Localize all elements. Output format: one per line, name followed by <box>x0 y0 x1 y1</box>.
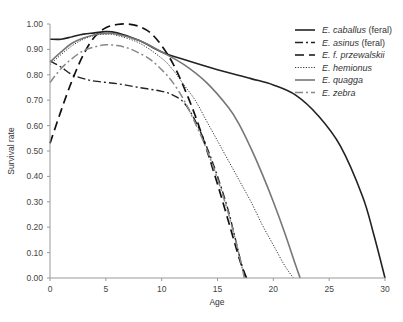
y-tick-label: 0.80 <box>26 70 43 80</box>
legend: E. caballus (feral)E. asinus (feral)E. f… <box>295 25 392 98</box>
series-line-e-quagga <box>50 33 300 278</box>
x-ticks: 051015202530 <box>48 278 390 294</box>
legend-item-e-caballus: E. caballus (feral) <box>295 25 392 35</box>
x-tick-label: 5 <box>103 284 108 294</box>
x-tick-label: 0 <box>48 284 53 294</box>
survival-chart: 0.000.100.200.300.400.500.600.700.800.90… <box>0 0 403 322</box>
series-line-e-zebra <box>50 45 244 278</box>
legend-item-e-quagga: E. quagga <box>295 75 363 85</box>
legend-item-e-f-przewalskii: E. f. przewalskii <box>295 50 386 60</box>
legend-label: E. asinus (feral) <box>322 38 385 48</box>
x-tick-label: 15 <box>213 284 223 294</box>
y-tick-label: 0.40 <box>26 171 43 181</box>
legend-item-e-zebra: E. zebra <box>295 88 356 98</box>
y-tick-label: 0.30 <box>26 197 43 207</box>
x-axis-label: Age <box>209 297 224 307</box>
y-ticks: 0.000.100.200.300.400.500.600.700.800.90… <box>26 19 50 283</box>
legend-label: E. quagga <box>322 75 363 85</box>
legend-label: E. caballus (feral) <box>322 25 392 35</box>
series-line-e-hemionus <box>50 34 293 278</box>
y-tick-label: 0.10 <box>26 248 43 258</box>
y-tick-label: 0.90 <box>26 44 43 54</box>
x-tick-label: 10 <box>157 284 167 294</box>
y-tick-label: 0.00 <box>26 273 43 283</box>
legend-label: E. zebra <box>322 88 356 98</box>
y-tick-label: 0.60 <box>26 121 43 131</box>
y-tick-label: 1.00 <box>26 19 43 29</box>
x-tick-label: 20 <box>269 284 279 294</box>
series-line-e-f-przewalskii <box>50 24 247 278</box>
y-tick-label: 0.50 <box>26 146 43 156</box>
y-tick-label: 0.20 <box>26 222 43 232</box>
y-tick-label: 0.70 <box>26 95 43 105</box>
legend-label: E. f. przewalskii <box>322 50 386 60</box>
legend-item-e-hemionus: E. hemionus <box>295 63 373 73</box>
legend-item-e-asinus: E. asinus (feral) <box>295 38 385 48</box>
x-tick-label: 30 <box>380 284 390 294</box>
legend-label: E. hemionus <box>322 63 373 73</box>
y-axis-label: Survival rate <box>6 127 16 175</box>
x-tick-label: 25 <box>324 284 334 294</box>
